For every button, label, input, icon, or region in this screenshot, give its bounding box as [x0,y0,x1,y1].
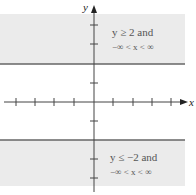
lower-shaded-region [0,140,185,186]
x-axis-arrow-icon [180,99,188,105]
y-axis-arrow-icon [91,5,97,13]
lower-region-condition-1: y ≤ −2 and [110,151,158,163]
lower-region-condition-2: −∞ < x < ∞ [110,167,152,177]
upper-shaded-region [0,14,185,64]
y-axis-label: y [82,1,88,13]
upper-region-condition-1: y ≥ 2 and [112,26,154,38]
region-graph: x y y ≥ 2 and −∞ < x < ∞ y ≤ −2 and −∞ <… [0,0,196,195]
x-axis-label: x [188,96,194,108]
upper-region-condition-2: −∞ < x < ∞ [112,42,154,52]
